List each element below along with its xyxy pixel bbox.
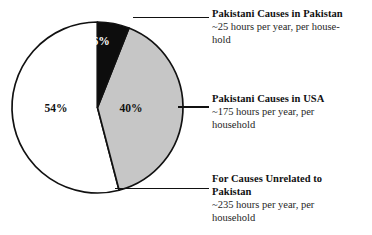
- callout-usa: Pakistani Causes in USA ~175 hours per y…: [212, 92, 370, 131]
- callout-pakistan-detail: ~25 hours per year, per house- hold: [212, 20, 370, 46]
- callout-unrelated-title: For Causes Unrelated to Pakistan: [212, 172, 370, 198]
- pie-slice-value-unrelated: 54%: [45, 102, 68, 114]
- pie-slice-value-pakistan: 6%: [92, 35, 109, 47]
- callout-pakistan-detail-line2: hold: [212, 33, 370, 46]
- callout-unrelated-title-line2: Pakistan: [212, 185, 370, 198]
- callout-unrelated: For Causes Unrelated to Pakistan ~235 ho…: [212, 172, 370, 224]
- callout-pakistan: Pakistani Causes in Pakistan ~25 hours p…: [212, 7, 370, 46]
- callout-pakistan-detail-line1: ~25 hours per year, per house-: [212, 20, 370, 33]
- callout-unrelated-detail-line1: ~235 hours per year, per: [212, 198, 370, 211]
- callout-unrelated-detail: ~235 hours per year, per household: [212, 198, 370, 224]
- callout-usa-detail-line2: household: [212, 118, 370, 131]
- callout-unrelated-title-line1: For Causes Unrelated to: [212, 172, 370, 185]
- callout-usa-detail-line1: ~175 hours per year, per: [212, 105, 370, 118]
- callout-unrelated-detail-line2: household: [212, 211, 370, 224]
- callout-usa-detail: ~175 hours per year, per household: [212, 105, 370, 131]
- callout-usa-title: Pakistani Causes in USA: [212, 92, 370, 105]
- pie-chart-figure: 6% 40% 54% Pakistani Causes in Pakistan …: [0, 0, 372, 235]
- pie-slice-value-usa: 40%: [120, 102, 143, 114]
- callout-pakistan-title: Pakistani Causes in Pakistan: [212, 7, 370, 20]
